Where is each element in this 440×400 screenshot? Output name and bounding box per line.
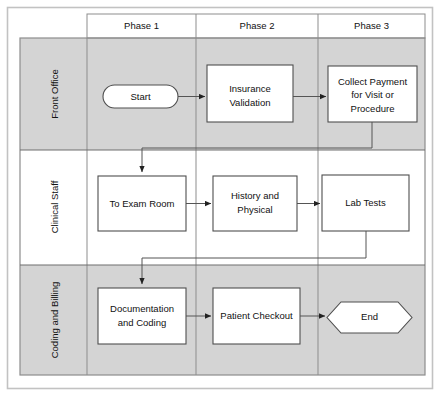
- node-documentation-and-coding-label-line2: and Coding: [118, 317, 167, 328]
- node-lab-tests-label: Lab Tests: [345, 197, 386, 208]
- node-insurance-validation[interactable]: Insurance Validation: [207, 65, 293, 122]
- node-insurance-validation-label-line2: Validation: [229, 97, 270, 108]
- lane-label-front-office: Front Office: [49, 69, 60, 118]
- node-collect-payment-label-line1: Collect Payment: [338, 76, 408, 87]
- node-documentation-and-coding-label-line1: Documentation: [110, 303, 174, 314]
- lane-label-clinical-staff: Clinical Staff: [49, 180, 60, 233]
- node-history-and-physical-label-line2: Physical: [237, 204, 272, 215]
- node-collect-payment[interactable]: Collect Payment for Visit or Procedure: [328, 66, 417, 122]
- node-patient-checkout-label: Patient Checkout: [220, 310, 293, 321]
- node-end-label: End: [361, 311, 378, 322]
- phase-header-label-phase1: Phase 1: [124, 20, 159, 31]
- node-collect-payment-label-line2: for Visit or: [351, 89, 394, 100]
- node-to-exam-room[interactable]: To Exam Room: [98, 176, 186, 231]
- lane-label-coding-and-billing: Coding and Billing: [49, 282, 60, 359]
- node-end[interactable]: End: [327, 302, 412, 333]
- node-patient-checkout[interactable]: Patient Checkout: [213, 288, 300, 344]
- node-start[interactable]: Start: [103, 85, 178, 108]
- node-documentation-and-coding[interactable]: Documentation and Coding: [98, 288, 186, 344]
- phase-header-label-phase3: Phase 3: [354, 20, 389, 31]
- node-history-and-physical[interactable]: History and Physical: [213, 176, 297, 231]
- phase-header-label-phase2: Phase 2: [240, 20, 275, 31]
- node-collect-payment-label-line3: Procedure: [351, 103, 395, 114]
- node-lab-tests[interactable]: Lab Tests: [322, 175, 409, 231]
- node-to-exam-room-label: To Exam Room: [110, 198, 175, 209]
- node-history-and-physical-label-line1: History and: [231, 190, 279, 201]
- flowchart-canvas: Phase 1 Phase 2 Phase 3 Front Office Cli…: [0, 0, 440, 400]
- node-start-label: Start: [130, 91, 150, 102]
- node-insurance-validation-label-line1: Insurance: [229, 83, 271, 94]
